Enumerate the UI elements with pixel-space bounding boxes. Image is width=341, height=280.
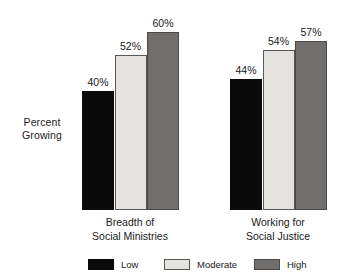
bar-group-working-for-social-justice: 44% 54% 57%	[230, 0, 327, 212]
chart-legend: Low Moderate High	[0, 256, 341, 274]
bar-slot-low: 44%	[230, 2, 262, 210]
grouped-bar-chart: Percent Growing 40% 52% 60% 44%	[0, 0, 341, 280]
bar-value-label: 57%	[289, 26, 333, 38]
bar-low[interactable]	[82, 91, 114, 210]
category-label-breadth-of-social-ministries: Breadth of Social Ministries	[60, 216, 200, 243]
category-label-line-1: Working for	[208, 216, 341, 230]
bar-moderate[interactable]	[115, 55, 147, 210]
plot-area: 40% 52% 60% 44% 54% 57%	[0, 0, 341, 212]
category-label-line-1: Breadth of	[60, 216, 200, 230]
bar-slot-low: 40%	[82, 2, 114, 210]
legend-label-moderate: Moderate	[197, 259, 237, 270]
legend-label-high: High	[287, 259, 307, 270]
legend-item-low[interactable]: Low	[88, 256, 138, 272]
category-label-working-for-social-justice: Working for Social Justice	[208, 216, 341, 243]
legend-item-moderate[interactable]: Moderate	[164, 256, 237, 272]
bar-group-breadth-of-social-ministries: 40% 52% 60%	[82, 0, 179, 212]
bar-high[interactable]	[295, 41, 327, 210]
category-label-line-2: Social Ministries	[60, 230, 200, 244]
legend-label-low: Low	[121, 259, 138, 270]
bar-high[interactable]	[147, 32, 179, 210]
bar-value-label: 44%	[224, 64, 268, 76]
bar-moderate[interactable]	[263, 50, 295, 210]
bar-slot-high: 60%	[147, 2, 179, 210]
bar-slot-moderate: 52%	[115, 2, 147, 210]
legend-swatch-icon-low	[88, 259, 114, 270]
bar-value-label: 52%	[109, 40, 153, 52]
bar-slot-high: 57%	[295, 2, 327, 210]
legend-swatch-icon-high	[254, 259, 280, 270]
legend-item-high[interactable]: High	[254, 256, 307, 272]
bar-low[interactable]	[230, 79, 262, 210]
bar-value-label: 40%	[76, 76, 120, 88]
bar-value-label: 60%	[141, 17, 185, 29]
legend-swatch-icon-moderate	[164, 259, 190, 270]
category-label-line-2: Social Justice	[208, 230, 341, 244]
